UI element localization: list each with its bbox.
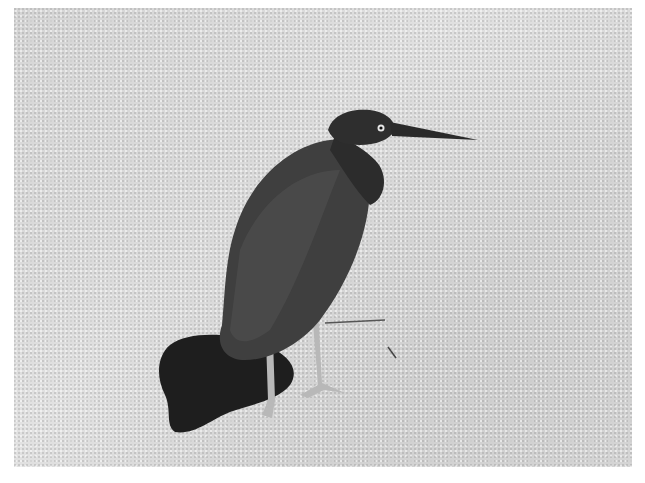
twig [388, 347, 396, 358]
heron-illustration [14, 8, 632, 467]
bird-beak [390, 122, 478, 140]
photo [14, 8, 632, 467]
bird-head [328, 110, 395, 145]
twig [325, 320, 385, 323]
